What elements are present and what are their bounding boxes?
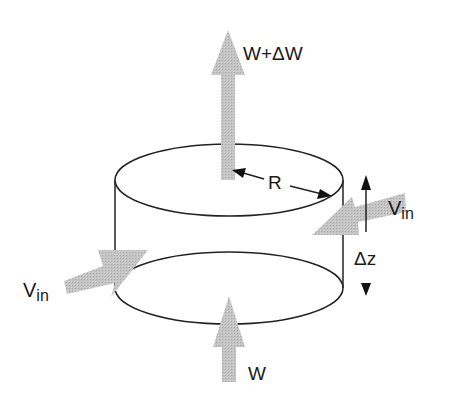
- inflow-arrow-left-icon: [64, 250, 148, 297]
- radius-label: R: [268, 172, 282, 193]
- diagram-canvas: R Δz W+ΔW W Vin Vin: [0, 0, 475, 407]
- top-flow-label: W+ΔW: [243, 43, 303, 64]
- inflow-right-label: Vin: [388, 197, 414, 222]
- upward-flow-arrow-bottom-icon: [213, 296, 245, 382]
- height-arrow-icon: [361, 175, 371, 296]
- inflow-left-label: Vin: [23, 279, 49, 304]
- bottom-flow-label: W: [248, 363, 266, 384]
- height-label: Δz: [354, 248, 376, 269]
- cylinder-diagram: R Δz W+ΔW W Vin Vin: [0, 0, 475, 407]
